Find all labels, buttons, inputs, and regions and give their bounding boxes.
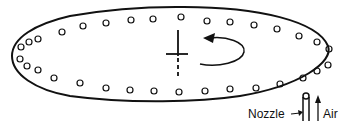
nozzle [303, 93, 309, 121]
center-axis-cross [166, 30, 188, 77]
air-label: Air [323, 107, 338, 121]
nozzle-pointer-arrow [291, 110, 303, 116]
rotation-arrow [200, 33, 244, 65]
diagram-canvas: Nozzle Air [0, 0, 352, 128]
air-arrow [315, 95, 321, 121]
nozzle-label: Nozzle [248, 107, 285, 121]
